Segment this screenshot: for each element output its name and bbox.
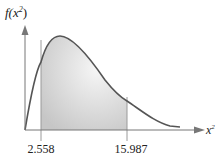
left-bound-label: 2.558 bbox=[28, 142, 55, 156]
shaded-area bbox=[41, 36, 127, 130]
x-axis-arrow-icon bbox=[194, 127, 205, 134]
right-bound-label: 15.987 bbox=[115, 142, 148, 156]
y-axis-arrow-icon bbox=[22, 25, 29, 35]
x-axis-label: x2 bbox=[205, 123, 215, 137]
y-axis-label: f(x2) bbox=[5, 5, 27, 20]
chart: f(x2) x2 2.558 15.987 bbox=[0, 0, 218, 163]
